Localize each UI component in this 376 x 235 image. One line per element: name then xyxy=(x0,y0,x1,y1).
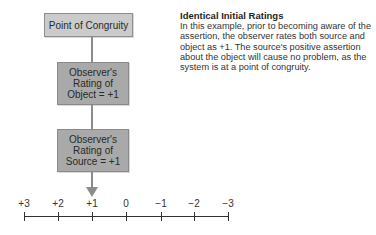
object-rating-label: Observer's Rating of Object = +1 xyxy=(67,67,119,100)
scale-tick xyxy=(228,212,229,221)
scale-label: 0 xyxy=(114,198,138,209)
connector-line xyxy=(91,172,93,188)
arrow-down-icon xyxy=(86,187,98,197)
object-rating-box: Observer's Rating of Object = +1 xyxy=(57,62,129,105)
scale-label: −2 xyxy=(182,198,206,209)
scale-label: −3 xyxy=(216,198,240,209)
connector-line xyxy=(91,37,93,62)
scale-label: +1 xyxy=(80,198,104,209)
scale-tick xyxy=(92,212,93,221)
scale-tick xyxy=(24,212,25,221)
scale-label: +2 xyxy=(46,198,70,209)
point-of-congruity-box: Point of Congruity xyxy=(44,13,133,37)
scale-tick xyxy=(58,212,59,221)
description-title: Identical Initial Ratings xyxy=(180,11,372,21)
scale-label: −1 xyxy=(149,198,173,209)
scale-tick xyxy=(126,212,127,221)
connector-line xyxy=(91,105,93,129)
scale-tick xyxy=(161,212,162,221)
source-rating-label: Observer's Rating of Source = +1 xyxy=(66,134,120,167)
source-rating-box: Observer's Rating of Source = +1 xyxy=(57,129,129,172)
description-body: In this example, prior to becoming aware… xyxy=(180,21,372,72)
scale-tick xyxy=(194,212,195,221)
point-of-congruity-label: Point of Congruity xyxy=(49,20,129,31)
scale-label: +3 xyxy=(12,198,36,209)
description-block: Identical Initial Ratings In this exampl… xyxy=(180,11,372,72)
